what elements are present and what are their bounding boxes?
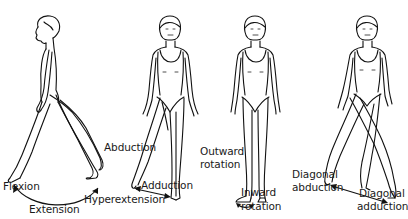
label-outward-rotation-line1: Outward bbox=[200, 145, 244, 157]
label-diagonal-adduction-line1: Diagonal bbox=[359, 187, 405, 199]
label-flexion: Flexion bbox=[3, 180, 40, 192]
figures-canvas bbox=[0, 0, 408, 219]
label-hyperextension: Hyperextension bbox=[84, 193, 165, 205]
figure-side-view bbox=[8, 16, 103, 205]
label-extension: Extension bbox=[29, 203, 80, 215]
figure-front-abduction bbox=[132, 16, 198, 200]
movement-diagram: Flexion Extension Hyperextension Abducti… bbox=[0, 0, 408, 219]
figure-front-rotation bbox=[231, 16, 280, 209]
label-diagonal-abduction-line1: Diagonal bbox=[292, 168, 338, 180]
label-inward-rotation-line2: rotation bbox=[241, 200, 281, 212]
label-adduction: Adduction bbox=[141, 179, 193, 191]
label-diagonal-abduction-line2: abduction bbox=[292, 181, 343, 193]
label-abduction: Abduction bbox=[104, 141, 156, 153]
label-outward-rotation-line2: rotation bbox=[200, 158, 240, 170]
label-inward-rotation-line1: Inward bbox=[241, 186, 276, 198]
label-diagonal-adduction-line2: adduction bbox=[357, 200, 408, 212]
